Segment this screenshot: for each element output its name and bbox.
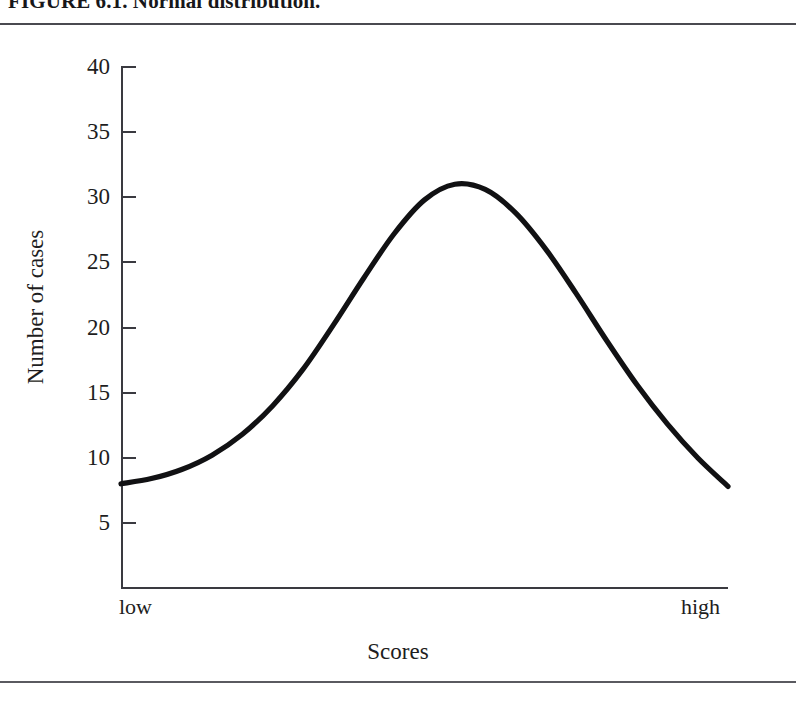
y-tick-label-10: 10 — [48, 446, 110, 469]
y-tick-5 — [123, 522, 136, 524]
y-tick-label-25: 25 — [48, 250, 110, 273]
y-tick-label-30: 30 — [48, 185, 110, 208]
y-axis-title: Number of cases — [23, 197, 49, 417]
y-tick-10 — [123, 457, 136, 459]
y-tick-40 — [123, 66, 136, 68]
figure-caption: FIGURE 6.1. Normal distribution. — [8, 0, 320, 14]
y-tick-label-20: 20 — [48, 316, 110, 339]
x-axis-line — [121, 587, 728, 589]
y-tick-20 — [123, 327, 136, 329]
y-tick-30 — [123, 196, 136, 198]
x-axis-title: Scores — [0, 639, 796, 665]
curve-path — [121, 184, 728, 487]
y-tick-15 — [123, 392, 136, 394]
x-axis-high-label: high — [681, 596, 720, 618]
y-tick-35 — [123, 131, 136, 133]
figure-container: FIGURE 6.1. Normal distribution. 5101520… — [0, 0, 796, 702]
x-axis-low-label: low — [119, 596, 152, 618]
y-tick-label-40: 40 — [48, 55, 110, 78]
plot-area: 510152025303540 low high Scores Number o… — [0, 24, 796, 681]
y-tick-25 — [123, 261, 136, 263]
bottom-rule — [0, 681, 796, 683]
distribution-curve — [0, 24, 796, 681]
y-tick-label-35: 35 — [48, 120, 110, 143]
y-tick-label-5: 5 — [48, 511, 110, 534]
y-tick-label-15: 15 — [48, 381, 110, 404]
